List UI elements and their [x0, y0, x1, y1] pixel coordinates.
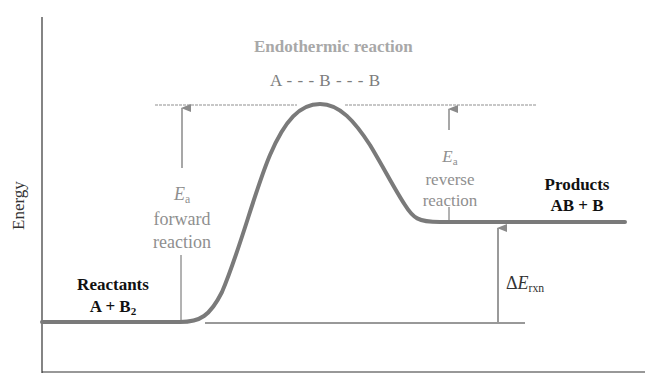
ea-reverse-line2: reaction: [412, 192, 488, 209]
products-title: Products: [532, 176, 622, 193]
energy-diagram: Endothermic reaction A - - - B - - - B E…: [0, 0, 655, 388]
delta-e-symbol: E: [518, 273, 529, 293]
ea-reverse-label: Ea reverse reaction: [412, 148, 488, 209]
ea-forward-line1: forward: [144, 210, 220, 228]
products-formula: AB + B: [532, 197, 622, 214]
reactants-formula-subscript: 2: [131, 305, 137, 317]
delta-e-prefix: Δ: [506, 273, 518, 293]
diagram-title: Endothermic reaction: [254, 38, 413, 55]
reactants-formula: A + B: [90, 297, 131, 316]
ea-forward-line2: reaction: [144, 233, 220, 251]
transition-state-label: A - - - B - - - B: [270, 72, 380, 89]
ea-reverse-symbol: E: [442, 147, 452, 166]
delta-e-subscript: rxn: [529, 282, 545, 295]
reactants-title: Reactants: [58, 276, 168, 293]
ea-forward-symbol: E: [174, 184, 185, 204]
delta-e-label: ΔErxn: [506, 274, 544, 295]
ea-reverse-subscript: a: [453, 155, 458, 167]
ea-forward-subscript: a: [185, 193, 190, 206]
reactants-label: Reactants A + B2: [58, 276, 168, 317]
ea-reverse-line1: reverse: [412, 171, 488, 188]
ea-forward-label: Ea forward reaction: [144, 185, 220, 251]
y-axis-label: Energy: [10, 181, 27, 230]
products-label: Products AB + B: [532, 176, 622, 214]
